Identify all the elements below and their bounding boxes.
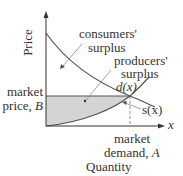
x-axis-arrow-icon — [158, 124, 165, 129]
market-price-prefix: price, — [3, 98, 35, 113]
market-demand-prefix: demand, — [104, 145, 152, 160]
y-axis-label: Price — [21, 29, 34, 56]
market-demand-label-line1: market — [114, 132, 150, 145]
x-axis-label: Quantity — [86, 160, 132, 173]
producers-surplus-region — [46, 96, 130, 126]
market-demand-symbol: A — [152, 145, 160, 160]
supply-label-pointer — [125, 103, 141, 109]
market-price-label-line2: price, B — [0, 99, 43, 112]
y-axis-arrow-icon — [44, 11, 49, 18]
market-demand-label-line2: demand, A — [104, 146, 160, 159]
supply-curve-label: s(x) — [142, 103, 162, 116]
producers-surplus-dot-icon — [84, 100, 86, 102]
market-price-symbol: B — [35, 98, 43, 113]
x-axis-symbol: x — [168, 118, 174, 131]
consumers-surplus-label-line1: consumers' — [79, 27, 137, 40]
market-price-label-line1: market — [4, 85, 43, 98]
demand-curve-label: d(x) — [116, 80, 137, 93]
